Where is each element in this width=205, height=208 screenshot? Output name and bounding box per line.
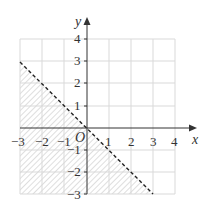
y-axis-label: y <box>73 14 82 29</box>
x-tick: 3 <box>150 134 157 149</box>
y-tick: 1 <box>74 98 81 113</box>
x-tick: 1 <box>105 134 112 149</box>
x-tick: 2 <box>128 134 135 149</box>
x-axis-arrow-icon <box>189 125 197 132</box>
x-tick: 4 <box>171 134 178 149</box>
y-tick: −3 <box>67 187 81 202</box>
y-tick: 2 <box>74 75 81 90</box>
inequality-graph: y x O −3 −2 −1 1 2 3 4 4 3 2 1 −1 −2 −3 <box>0 0 205 208</box>
x-axis-label: x <box>191 132 199 147</box>
x-tick: −3 <box>11 134 25 149</box>
y-tick: 3 <box>74 53 81 68</box>
y-tick: −1 <box>67 142 81 157</box>
y-tick: 4 <box>74 31 81 46</box>
y-tick: −2 <box>67 164 81 179</box>
y-axis-arrow-icon <box>84 17 91 25</box>
x-tick: −2 <box>35 134 49 149</box>
